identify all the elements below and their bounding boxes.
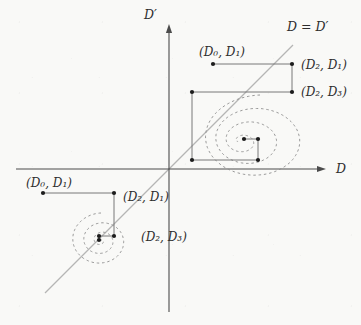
y-axis-arrow-icon <box>166 24 172 33</box>
upper-spiral <box>206 95 300 175</box>
data-point <box>97 234 101 238</box>
lower-point-label-d2d3: (D₂, D₃) <box>141 230 187 244</box>
data-point <box>112 191 116 195</box>
data-point <box>290 62 294 66</box>
phase-diagram-figure: D = D′ D D′ (D₀, D₁) (D₂, D₁) (D₂, D₃) <box>0 0 361 325</box>
lower-point-label-d0d1: (D₀, D₁) <box>26 176 72 190</box>
upper-cobweb: (D₀, D₁) (D₂, D₁) (D₂, D₃) <box>190 45 347 175</box>
identity-line-label: D = D′ <box>286 19 328 34</box>
data-point <box>97 238 101 242</box>
x-axis-label: D <box>335 161 346 176</box>
data-point <box>211 62 215 66</box>
data-point <box>190 90 194 94</box>
data-point <box>112 234 116 238</box>
data-point <box>41 191 45 195</box>
diagram-canvas: D = D′ D D′ (D₀, D₁) (D₂, D₁) (D₂, D₃) <box>0 0 361 325</box>
lower-point-label-d2d1: (D₂, D₁) <box>123 190 169 204</box>
data-point <box>242 137 246 141</box>
data-point <box>256 158 260 162</box>
upper-point-label-d0d1: (D₀, D₁) <box>199 45 245 59</box>
upper-point-label-d2d1: (D₂, D₁) <box>301 58 347 72</box>
lower-cobweb: (D₀, D₁) (D₂, D₁) (D₂, D₃) <box>26 176 187 263</box>
y-axis-label: D′ <box>143 7 157 22</box>
x-axis-arrow-icon <box>317 166 326 172</box>
data-point <box>290 90 294 94</box>
lower-cobweb-path <box>43 193 114 240</box>
upper-point-label-d2d3: (D₂, D₃) <box>301 85 347 99</box>
data-point <box>256 137 260 141</box>
data-point <box>190 158 194 162</box>
